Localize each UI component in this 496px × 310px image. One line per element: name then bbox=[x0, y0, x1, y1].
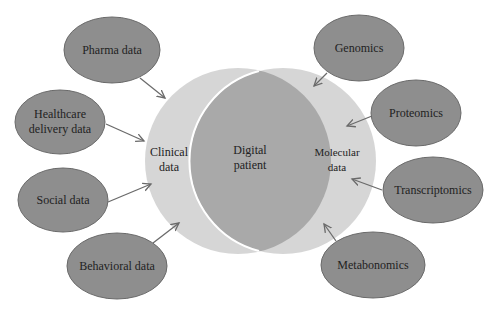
social-data-label: Social data bbox=[37, 193, 91, 207]
molecular-data-label-2: data bbox=[328, 161, 346, 173]
input-node-healthcare-delivery-data: Healthcare delivery data bbox=[15, 90, 105, 154]
arrow-pharma bbox=[140, 78, 165, 98]
digital-patient-label-1: Digital bbox=[233, 143, 267, 157]
input-node-metabonomics: Metabonomics bbox=[321, 232, 425, 298]
input-node-social-data: Social data bbox=[18, 168, 108, 232]
arrow-social bbox=[108, 184, 151, 202]
arrow-healthcare bbox=[106, 124, 144, 141]
input-node-behavioral-data: Behavioral data bbox=[67, 233, 167, 299]
transcriptomics-label: Transcriptomics bbox=[394, 183, 472, 197]
left-inputs: Pharma data Healthcare delivery data Soc… bbox=[15, 17, 167, 299]
digital-patient-diagram: Clinical data Digital patient Molecular … bbox=[0, 0, 496, 310]
genomics-label: Genomics bbox=[335, 41, 384, 55]
behavioral-data-label: Behavioral data bbox=[79, 259, 155, 273]
input-node-proteomics: Proteomics bbox=[371, 80, 461, 146]
healthcare-label-1: Healthcare bbox=[34, 107, 86, 121]
proteomics-label: Proteomics bbox=[389, 106, 443, 120]
digital-patient-label-2: patient bbox=[234, 158, 267, 172]
pharma-data-label: Pharma data bbox=[82, 43, 142, 57]
input-node-genomics: Genomics bbox=[314, 15, 404, 81]
clinical-data-label-1: Clinical bbox=[150, 145, 189, 159]
molecular-data-label-1: Molecular bbox=[314, 146, 360, 158]
arrow-behavioral bbox=[153, 223, 179, 243]
clinical-data-label-2: data bbox=[159, 160, 180, 174]
input-node-pharma-data: Pharma data bbox=[64, 17, 160, 83]
input-node-transcriptomics: Transcriptomics bbox=[383, 157, 483, 223]
metabonomics-label: Metabonomics bbox=[337, 258, 409, 272]
healthcare-label-2: delivery data bbox=[29, 122, 92, 136]
